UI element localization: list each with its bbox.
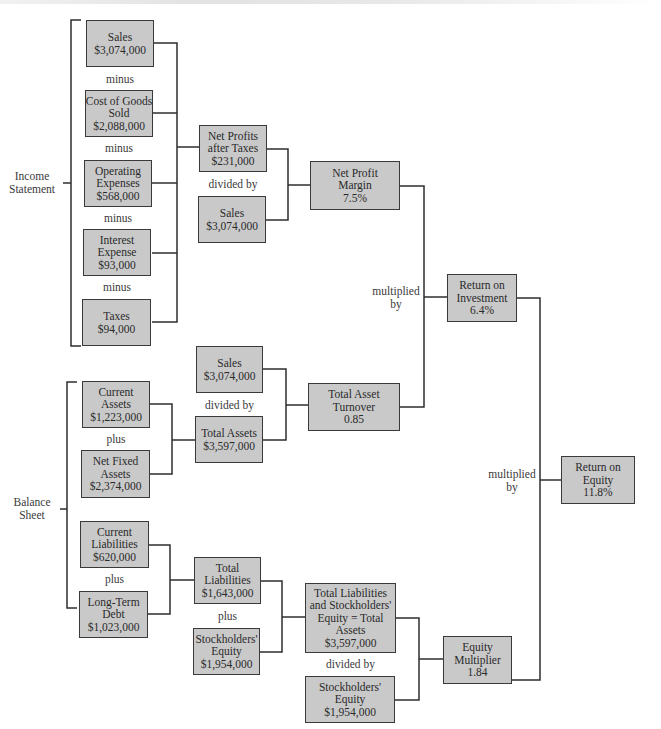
node-value: $1,954,000 [324, 706, 376, 719]
node-line: Multiplier [454, 654, 501, 667]
node-line: Margin [338, 179, 372, 192]
node-line: Assets [335, 624, 365, 637]
node-line: Total Asset [328, 388, 379, 401]
plus-operator: plus [80, 573, 149, 585]
node-line: Equity [211, 645, 242, 658]
node-line: Stockholders' [195, 633, 257, 646]
node-value: 0.85 [344, 413, 364, 426]
node-line: Interest [100, 234, 134, 247]
node-value: $1,223,000 [90, 411, 142, 424]
minus-operator: minus [86, 73, 154, 85]
node-line: Sales [220, 207, 244, 220]
node-value: $3,597,000 [325, 637, 377, 650]
total-liabilities-and-equity-box: Total Liabilities and Stockholders' Equi… [305, 583, 396, 653]
operating-expenses-box: Operating Expenses $568,000 [84, 160, 152, 207]
node-line: Current [97, 526, 132, 539]
node-value: $2,374,000 [90, 480, 142, 493]
node-line: Debt [102, 608, 124, 621]
stockholders-equity-box-divisor: Stockholders' Equity $1,954,000 [305, 676, 395, 723]
node-line: Investment [456, 292, 507, 305]
node-value: $3,074,000 [94, 44, 146, 57]
node-line: and Stockholders' [310, 599, 392, 612]
node-line: Turnover [333, 401, 375, 414]
long-term-debt-box: Long-Term Debt $1,023,000 [79, 591, 148, 638]
current-assets-box: Current Assets $1,223,000 [82, 381, 150, 428]
sales-box-turnover: Sales $3,074,000 [196, 346, 263, 393]
node-line: Sold [108, 107, 129, 120]
divided-by-operator: divided by [199, 178, 267, 190]
node-line: Total [216, 562, 239, 575]
node-value: $3,597,000 [203, 440, 255, 453]
total-asset-turnover-box: Total Asset Turnover 0.85 [308, 383, 400, 431]
node-value: 1.84 [467, 666, 487, 679]
net-fixed-assets-box: Net Fixed Assets $2,374,000 [81, 450, 150, 498]
node-value: $93,000 [98, 259, 135, 272]
node-value: $1,023,000 [88, 621, 140, 634]
node-line: Taxes [103, 310, 130, 323]
node-line: Expense [98, 246, 137, 259]
minus-operator: minus [85, 142, 153, 154]
taxes-box: Taxes $94,000 [82, 299, 151, 346]
divided-by-operator: divided by [305, 658, 396, 670]
operator-text: multiplied [484, 468, 540, 481]
node-line: Equity = Total [317, 612, 383, 625]
node-value: $1,643,000 [202, 587, 254, 600]
node-value: 6.4% [470, 304, 494, 317]
income-statement-bracket [71, 20, 81, 346]
node-line: Total Assets [201, 427, 257, 440]
minus-operator: minus [84, 212, 152, 224]
node-line: Return on [575, 461, 621, 474]
plus-operator: plus [194, 610, 261, 622]
node-line: Net Fixed [93, 455, 139, 468]
current-liabilities-box: Current Liabilities $620,000 [80, 521, 149, 568]
node-value: $1,954,000 [201, 658, 253, 671]
return-on-equity-box: Return on Equity 11.8% [561, 456, 635, 504]
node-line: Equity [335, 693, 366, 706]
operator-text: by [484, 481, 540, 494]
divided-by-operator: divided by [196, 399, 263, 411]
node-line: Net Profits [208, 130, 258, 143]
multiplied-by-operator-roe: multiplied by [484, 468, 540, 494]
node-value: $3,074,000 [206, 220, 258, 233]
node-line: Equity [462, 641, 493, 654]
plus-operator: plus [82, 433, 150, 445]
node-line: Total Liabilities [314, 587, 387, 600]
node-value: $568,000 [96, 190, 139, 203]
balance-sheet-text: Balance Sheet [13, 496, 50, 521]
node-value: $3,074,000 [204, 370, 256, 383]
node-line: Sales [108, 31, 132, 44]
node-line: Sales [217, 357, 241, 370]
node-line: Liabilities [91, 538, 138, 551]
stockholders-equity-box: Stockholders' Equity $1,954,000 [193, 628, 260, 675]
node-line: Long-Term [87, 596, 139, 609]
total-assets-box: Total Assets $3,597,000 [195, 416, 263, 463]
node-line: Net Profit [332, 167, 378, 180]
node-line: after Taxes [208, 142, 258, 155]
multiplied-by-operator-roi: multiplied by [368, 285, 424, 311]
net-profit-margin-box: Net Profit Margin 7.5% [310, 161, 400, 210]
operator-text: by [368, 298, 424, 311]
node-line: Expenses [96, 177, 139, 190]
income-statement-text: Income Statement [9, 170, 55, 195]
net-profits-after-taxes-box: Net Profits after Taxes $231,000 [199, 125, 267, 172]
sales-box-margin: Sales $3,074,000 [198, 196, 266, 243]
node-line: Return on [459, 279, 505, 292]
balance-sheet-label: Balance Sheet [8, 496, 56, 522]
return-on-investment-box: Return on Investment 6.4% [447, 274, 517, 322]
node-line: Stockholders' [319, 681, 381, 694]
node-value: $2,088,000 [93, 120, 145, 133]
node-value: $620,000 [93, 551, 136, 564]
node-value: $94,000 [98, 323, 135, 336]
node-value: 11.8% [583, 486, 612, 499]
operator-text: multiplied [368, 285, 424, 298]
node-line: Assets [101, 398, 131, 411]
interest-expense-box: Interest Expense $93,000 [83, 229, 151, 276]
income-statement-label: Income Statement [2, 170, 62, 196]
node-value: $231,000 [211, 155, 254, 168]
minus-operator: minus [83, 281, 151, 293]
node-line: Liabilities [204, 574, 251, 587]
node-value: 7.5% [343, 192, 367, 205]
sales-box-income: Sales $3,074,000 [86, 20, 154, 67]
node-line: Operating [95, 165, 141, 178]
node-line: Assets [100, 468, 130, 481]
